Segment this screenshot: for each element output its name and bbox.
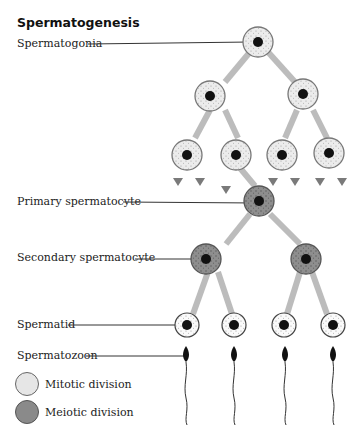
legend-label-meiotic: Meiotic division (45, 406, 134, 419)
cell-spermatid-a (175, 313, 199, 337)
cell-spermatogonium-l3d (314, 138, 344, 168)
cell-spermatogonium-l3a (172, 140, 202, 170)
spermatozoa (183, 346, 336, 425)
legend-label-mitotic: Mitotic division (45, 378, 132, 391)
cell-spermatogonium-l2a (195, 81, 225, 111)
legend-meiotic: Meiotic division (15, 400, 134, 424)
spermatogenesis-diagram (0, 0, 364, 432)
cell-primary-spermatocyte (244, 186, 274, 216)
cell-spermatid-d (321, 313, 345, 337)
cell-secondary-spermatocyte-b (291, 244, 321, 274)
spermatozoon-d (330, 346, 336, 425)
spermatozoon-c (282, 346, 288, 425)
cell-spermatid-c (272, 313, 296, 337)
legend-swatch-mitotic (15, 372, 39, 396)
cell-spermatogonia-l2b (288, 79, 318, 109)
cell-secondary-spermatocyte-a (191, 244, 221, 274)
legend-mitotic: Mitotic division (15, 372, 132, 396)
spermatozoon-a (183, 346, 189, 425)
legend-swatch-meiotic (15, 400, 39, 424)
cell-spermatogonium-top (243, 27, 273, 57)
cell-spermatogonium-l3b (221, 140, 251, 170)
cell-spermatid-b (222, 313, 246, 337)
cell-spermatogonium-l3c (267, 140, 297, 170)
spermatozoon-b (231, 346, 237, 425)
